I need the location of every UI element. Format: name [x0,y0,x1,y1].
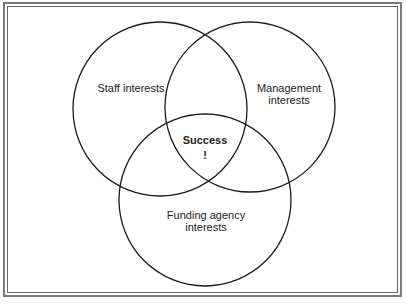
staff-label: Staff interests [97,82,164,94]
management-label-line2: interests [257,94,321,106]
success-label: Success ! [183,134,228,161]
funding-label-line2: interests [167,221,245,233]
management-label: Management interests [257,82,321,106]
staff-label-text: Staff interests [97,82,164,94]
staff-circle [73,22,247,196]
management-circle [165,22,335,192]
success-label-line2: ! [183,149,228,161]
funding-label: Funding agency interests [167,209,245,233]
success-label-line1: Success [183,134,228,146]
funding-label-line1: Funding agency [167,209,245,221]
management-label-line1: Management [257,82,321,94]
